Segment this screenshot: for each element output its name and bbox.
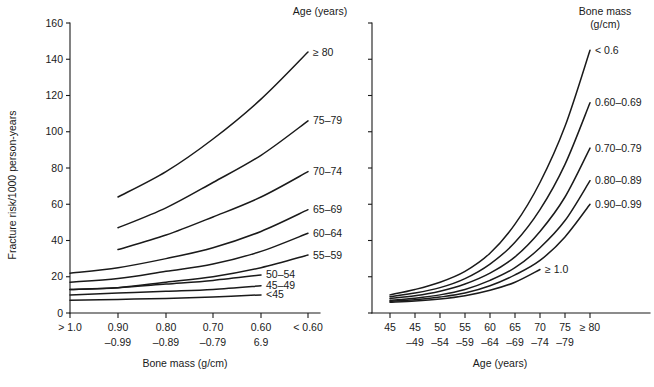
figure-root: 020406080100120140160> 1.00.90–0.990.80–…: [0, 0, 654, 387]
x-tick-label-top-2: 0.80: [156, 321, 177, 333]
series-label-0-80-0-89: 0.80–0.89: [595, 174, 642, 186]
x-tick-label-bottom-6: –74: [531, 336, 549, 348]
legend-title: Age (years): [293, 5, 347, 17]
y-tick-label-140: 140: [45, 53, 63, 65]
x-tick-label-top-3: 0.70: [203, 321, 224, 333]
x-tick-label-top-8: ≥ 80: [580, 321, 601, 333]
y-tick-label-60: 60: [51, 198, 63, 210]
x-tick-label-top-2: 50: [434, 321, 446, 333]
series-label-70-74: 70–74: [313, 165, 342, 177]
x-tick-label-top-1: 45: [409, 321, 421, 333]
legend-title-line1: Bone mass: [579, 5, 632, 17]
series-curve-45-49: [70, 286, 261, 295]
x-tick-label-top-0: 45: [384, 321, 396, 333]
x-tick-label-top-6: 70: [534, 321, 546, 333]
x-tick-label-top-3: 55: [459, 321, 471, 333]
y-tick-label-0: 0: [57, 307, 63, 319]
y-tick-label-80: 80: [51, 162, 63, 174]
right-panel: 4545–4950–5455–5960–6465–6970–7475–79≥ 8…: [368, 5, 650, 369]
x-tick-label-top-0: > 1.0: [58, 321, 82, 333]
y-tick-label-100: 100: [45, 125, 63, 137]
series-curve-0-70-0-79: [390, 148, 590, 298]
y-tick-label-160: 160: [45, 17, 63, 29]
series-curve-75-79: [118, 121, 308, 228]
series-curve-45: [70, 295, 261, 300]
x-tick-label-top-1: 0.90: [108, 321, 129, 333]
series-label-75-79: 75–79: [313, 114, 342, 126]
x-tick-label-top-4: 60: [484, 321, 496, 333]
x-tick-label-top-7: 75: [559, 321, 571, 333]
x-axis-title: Bone mass (g/cm): [142, 357, 227, 369]
series-label-55-59: 55–59: [313, 249, 342, 261]
left-panel: 020406080100120140160> 1.00.90–0.990.80–…: [6, 5, 347, 369]
x-axis-title: Age (years): [473, 357, 527, 369]
x-tick-label-bottom-1: –0.99: [105, 336, 131, 348]
chart-canvas: 020406080100120140160> 1.00.90–0.990.80–…: [0, 0, 654, 387]
series-curve-80: [118, 52, 308, 197]
series-label-65-69: 65–69: [313, 203, 342, 215]
x-tick-label-top-5: < 0.60: [293, 321, 323, 333]
x-tick-label-bottom-7: –79: [556, 336, 574, 348]
x-tick-label-top-5: 65: [509, 321, 521, 333]
series-label-0-90-0-99: 0.90–0.99: [595, 198, 642, 210]
legend-title-line2: (g/cm): [590, 18, 620, 30]
series-curve-65-69: [70, 210, 308, 273]
x-tick-label-bottom-3: –59: [456, 336, 474, 348]
series-label-60-64: 60–64: [313, 227, 342, 239]
series-label-0-60-0-69: 0.60–0.69: [595, 96, 642, 108]
series-label-1-0: ≥ 1.0: [545, 263, 568, 275]
x-tick-label-bottom-4: –64: [481, 336, 499, 348]
series-label-0-70-0-79: 0.70–0.79: [595, 142, 642, 154]
series-curve-0-6: [390, 50, 590, 295]
y-tick-label-20: 20: [51, 270, 63, 282]
x-tick-label-bottom-2: –54: [431, 336, 449, 348]
x-tick-label-bottom-2: –0.89: [153, 336, 179, 348]
series-label-0-6: < 0.6: [595, 44, 619, 56]
x-tick-label-top-4: 0.60: [251, 321, 272, 333]
y-tick-label-120: 120: [45, 89, 63, 101]
x-tick-label-bottom-5: –69: [506, 336, 524, 348]
series-label-45: <45: [266, 288, 284, 300]
x-tick-label-bottom-4: 6.9: [254, 336, 269, 348]
series-label-80: ≥ 80: [313, 46, 334, 58]
x-tick-label-bottom-1: –49: [406, 336, 424, 348]
x-tick-label-bottom-3: –0.79: [200, 336, 226, 348]
y-tick-label-40: 40: [51, 234, 63, 246]
y-axis-title: Fracture risk/1000 person-years: [6, 111, 18, 260]
series-curve-0-80-0-89: [390, 181, 590, 301]
